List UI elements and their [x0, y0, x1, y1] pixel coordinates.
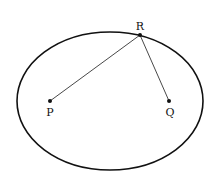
ellipse: [17, 32, 203, 170]
label-r: R: [136, 20, 145, 33]
label-p: P: [46, 106, 54, 119]
point-q: [167, 99, 171, 103]
ellipse-diagram: P Q R: [0, 0, 220, 182]
diagram-svg: P Q R: [0, 0, 220, 182]
point-p: [48, 99, 52, 103]
segment-rp: [50, 35, 140, 101]
label-q: Q: [165, 106, 174, 119]
point-r: [138, 33, 142, 37]
